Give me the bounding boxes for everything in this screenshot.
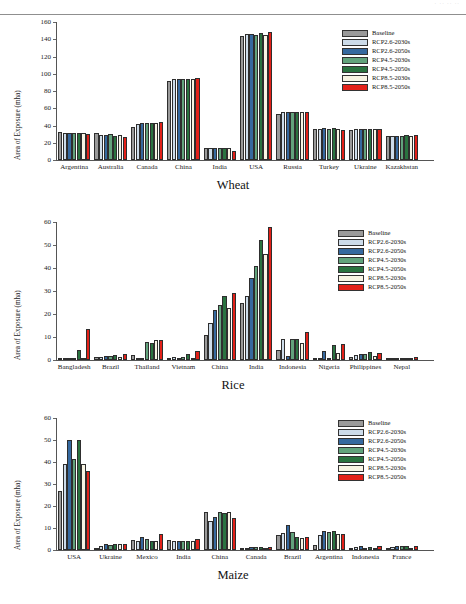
- legend-item[interactable]: RCP2.6-2050s: [338, 248, 406, 255]
- y-axis-tick: [53, 484, 56, 485]
- bar-group: [131, 22, 163, 160]
- y-axis-tick-label: 30: [26, 287, 51, 295]
- bar: [290, 112, 294, 160]
- bar: [276, 350, 280, 360]
- legend-label: RCP4.5-2030s: [368, 257, 406, 264]
- bar: [118, 544, 122, 550]
- bar: [359, 354, 363, 360]
- legend-item[interactable]: RCP8.5-2050s: [342, 84, 410, 91]
- bar: [232, 151, 236, 160]
- legend-item[interactable]: RCP2.6-2030s: [342, 39, 410, 46]
- legend-swatch: [338, 266, 364, 273]
- bar: [67, 133, 71, 160]
- bar: [86, 134, 90, 160]
- legend-item[interactable]: RCP4.5-2050s: [342, 66, 410, 73]
- bar: [313, 129, 317, 160]
- y-axis-tick: [53, 39, 56, 40]
- bar: [245, 296, 249, 360]
- legend-swatch: [342, 84, 368, 91]
- legend-item[interactable]: Baseline: [338, 230, 406, 237]
- legend-swatch: [338, 420, 364, 427]
- bar: [204, 335, 208, 360]
- bar: [81, 358, 85, 360]
- legend-item[interactable]: RCP2.6-2050s: [338, 438, 406, 445]
- legend-item[interactable]: RCP8.5-2030s: [338, 275, 406, 282]
- legend-item[interactable]: RCP8.5-2030s: [342, 75, 410, 82]
- bar: [414, 546, 418, 550]
- legend-item[interactable]: Baseline: [342, 30, 410, 37]
- bar: [327, 358, 331, 360]
- bar: [305, 537, 309, 550]
- bar: [227, 512, 231, 550]
- y-axis-line: [56, 22, 57, 160]
- legend-swatch: [338, 447, 364, 454]
- y-axis-tick-label: 40: [26, 264, 51, 272]
- y-axis-tick: [53, 108, 56, 109]
- bar: [177, 79, 181, 160]
- y-axis-tick: [53, 440, 56, 441]
- bar: [295, 339, 299, 360]
- bar: [373, 548, 377, 550]
- y-axis-tick: [53, 222, 56, 223]
- bar: [208, 521, 212, 550]
- legend-label: RCP2.6-2030s: [372, 39, 410, 46]
- plot-area-wheat: Area of Exposure (mha) 02040608010012014…: [0, 0, 466, 180]
- bar: [108, 134, 112, 160]
- legend-item[interactable]: RCP2.6-2050s: [342, 48, 410, 55]
- bar-group: [276, 222, 308, 360]
- y-axis-line: [56, 222, 57, 360]
- bar: [94, 548, 98, 550]
- legend-item[interactable]: RCP4.5-2030s: [338, 257, 406, 264]
- legend-item[interactable]: Baseline: [338, 420, 406, 427]
- bar: [400, 358, 404, 360]
- legend-item[interactable]: RCP8.5-2050s: [338, 474, 406, 481]
- bar: [145, 123, 149, 160]
- bar: [172, 79, 176, 161]
- legend-item[interactable]: RCP2.6-2030s: [338, 429, 406, 436]
- x-axis-line: [56, 360, 434, 361]
- bar: [159, 122, 163, 160]
- bar: [131, 127, 135, 160]
- bar-group: [240, 222, 272, 360]
- bar: [268, 547, 272, 550]
- bar: [140, 123, 144, 160]
- bar: [131, 355, 135, 360]
- bar: [400, 136, 404, 160]
- bar-group: [276, 418, 308, 550]
- bar: [263, 254, 267, 360]
- legend-item[interactable]: RCP4.5-2030s: [338, 447, 406, 454]
- bar-group: [58, 418, 90, 550]
- legend-item[interactable]: RCP4.5-2050s: [338, 266, 406, 273]
- y-axis-line: [56, 418, 57, 550]
- bar: [368, 129, 372, 160]
- bar: [67, 358, 71, 360]
- legend-label: RCP2.6-2030s: [368, 239, 406, 246]
- legend-item[interactable]: RCP8.5-2030s: [338, 465, 406, 472]
- y-axis-tick: [53, 245, 56, 246]
- legend-label: RCP2.6-2050s: [368, 248, 406, 255]
- bar: [349, 130, 353, 160]
- plot-area-maize: Area of Exposure (mha) 0102030405060USAU…: [0, 400, 466, 570]
- y-axis-tick: [53, 268, 56, 269]
- bar: [218, 512, 222, 550]
- bar: [359, 546, 363, 550]
- bar: [154, 123, 158, 160]
- bar: [249, 547, 253, 550]
- bar: [336, 129, 340, 160]
- bar: [99, 357, 103, 360]
- legend-item[interactable]: RCP2.6-2030s: [338, 239, 406, 246]
- bar-group: [131, 418, 163, 550]
- bar: [167, 81, 171, 160]
- bar: [363, 548, 367, 550]
- bar-group: [167, 22, 199, 160]
- bar: [341, 130, 345, 160]
- legend-item[interactable]: RCP8.5-2050s: [338, 284, 406, 291]
- bar: [336, 534, 340, 550]
- legend: BaselineRCP2.6-2030sRCP2.6-2050sRCP4.5-2…: [342, 30, 410, 93]
- legend-label: RCP8.5-2030s: [372, 75, 410, 82]
- bar: [332, 345, 336, 360]
- legend-item[interactable]: RCP4.5-2030s: [342, 57, 410, 64]
- bar: [400, 546, 404, 550]
- bar: [167, 540, 171, 550]
- legend-item[interactable]: RCP4.5-2050s: [338, 456, 406, 463]
